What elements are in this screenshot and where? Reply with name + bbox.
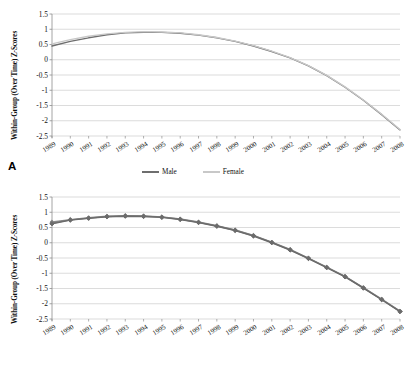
chart-panel-b: Within-Group (Over Time) Z-Scores B 15 t…: [0, 183, 410, 368]
figure-container: Within-Group (Over Time) Z-Scores A Male…: [0, 0, 410, 368]
chart-b-y-axis-title: Within-Group (Over Time) Z-Scores: [11, 215, 19, 324]
chart-a-y-axis-title: Within-Group (Over Time) Z-Scores: [11, 31, 19, 140]
chart-a-y-tick: -0.5: [26, 71, 48, 80]
chart-a-legend: MaleFemale: [142, 168, 244, 176]
chart-b-y-tick: 0: [26, 238, 48, 247]
chart-b-y-tick: -0.5: [26, 254, 48, 263]
legend-label: Male: [162, 168, 177, 176]
chart-a-y-tick: 0.5: [26, 40, 48, 49]
chart-a-y-tick: 1.5: [26, 10, 48, 19]
panel-a-label: A: [8, 160, 16, 172]
legend-item-female[interactable]: Female: [203, 168, 244, 176]
legend-swatch-icon: [203, 169, 220, 176]
chart-a-y-tick: -1: [26, 86, 48, 95]
legend-item-male[interactable]: Male: [142, 168, 177, 176]
chart-a-y-tick: -1.5: [26, 101, 48, 110]
chart-a-plot: [0, 0, 410, 185]
chart-b-y-tick: 1.5: [26, 193, 48, 202]
chart-b-y-tick: -1: [26, 269, 48, 278]
chart-a-y-tick: -2.5: [26, 132, 48, 141]
chart-b-y-tick: 1: [26, 208, 48, 217]
legend-swatch-icon: [142, 169, 159, 176]
chart-b-plot: [0, 183, 410, 368]
chart-b-y-tick: -2.5: [26, 315, 48, 324]
chart-a-y-tick: 0: [26, 55, 48, 64]
legend-label: Female: [223, 168, 244, 176]
chart-b-y-tick: 0.5: [26, 223, 48, 232]
chart-b-y-tick: -2: [26, 299, 48, 308]
chart-a-y-tick: -2: [26, 116, 48, 125]
chart-a-y-tick: 1: [26, 25, 48, 34]
chart-panel-a: Within-Group (Over Time) Z-Scores A Male…: [0, 0, 410, 185]
chart-b-y-tick: -1.5: [26, 284, 48, 293]
